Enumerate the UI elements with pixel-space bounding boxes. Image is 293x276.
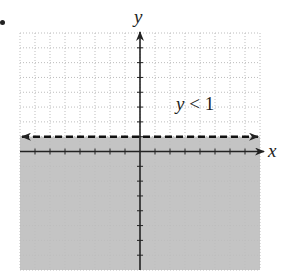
inequality-relation: < 1: [184, 93, 214, 114]
y-axis-label: y: [134, 6, 142, 28]
x-axis-label: x: [268, 140, 276, 162]
inequality-label: y < 1: [176, 93, 214, 115]
inequality-graph: [0, 0, 293, 276]
